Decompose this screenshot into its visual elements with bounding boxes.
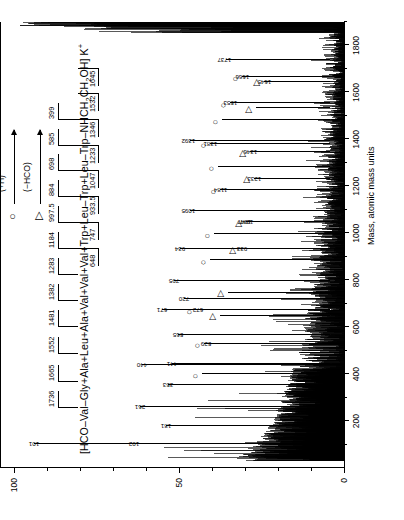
peak-mass-label: 1184 xyxy=(214,187,227,193)
fragment-mass-label: 933.5 xyxy=(89,197,97,216)
peak-mass-label: 261 xyxy=(135,404,145,410)
fragment-mass-label: 1645 xyxy=(89,71,97,87)
peak-mass-label: 1346 xyxy=(243,149,257,155)
x-tick xyxy=(344,279,349,280)
y-tick-label: 0 xyxy=(339,478,349,508)
peak-mass-label: 565 xyxy=(173,332,183,338)
peak-mass-label: 181 xyxy=(161,423,171,429)
peak-mass-label: 1553 xyxy=(223,100,237,106)
fragment-mass-label: 1346 xyxy=(89,122,97,138)
peak-leader-line xyxy=(140,406,330,407)
peak-leader-line xyxy=(226,59,330,60)
peak-leader-line xyxy=(204,343,330,344)
y-tick xyxy=(278,468,279,471)
peak-mass-label: 1233 xyxy=(247,176,261,182)
peak-mass-label: 441 xyxy=(167,361,177,367)
y-tick xyxy=(113,468,114,471)
y-tick xyxy=(179,468,180,473)
y-tick xyxy=(245,468,246,471)
peak-leader-line xyxy=(256,107,330,108)
fragment-mass-label: 1736 xyxy=(48,391,56,407)
x-tick xyxy=(344,209,347,210)
x-tick xyxy=(344,232,349,233)
peak-mass-label: 102 xyxy=(129,441,139,447)
fragment-mass-label: 1184 xyxy=(48,232,56,248)
peak-leader-line xyxy=(222,119,330,120)
peak-mass-label: 1392 xyxy=(181,138,195,144)
fragment-stem xyxy=(58,170,78,171)
fragment-stem xyxy=(58,274,78,275)
y-tick-label: 50 xyxy=(174,478,184,508)
fragment-mass-label: 1481 xyxy=(48,310,56,326)
peak-leader-line xyxy=(220,315,330,316)
minus-hco-marker-icon: ▷ xyxy=(244,106,253,113)
x-axis-line xyxy=(344,22,345,468)
fragment-arm xyxy=(98,68,99,86)
x-tick-label: 1800 xyxy=(351,36,361,55)
fragment-arm xyxy=(58,180,59,197)
fragment-mass-label: 1382 xyxy=(48,284,56,300)
peak-leader-line xyxy=(174,280,330,281)
x-tick-label: 400 xyxy=(351,367,361,381)
fragment-arm xyxy=(98,119,99,137)
fragment-arm xyxy=(98,196,99,214)
x-tick-label: 600 xyxy=(351,320,361,334)
figure-page: 101102181261353○440441○529565▷671○672720… xyxy=(0,0,404,520)
peak-leader-line xyxy=(196,309,330,310)
fragment-mass-label: 1552 xyxy=(48,337,56,353)
minus-hco-marker-icon: ▷ xyxy=(216,290,225,297)
x-tick xyxy=(344,21,347,22)
fragment-arm xyxy=(58,129,59,146)
fragment-stem xyxy=(58,326,78,327)
peak-mass-label: 795 xyxy=(169,278,179,284)
fragment-arm xyxy=(98,93,99,111)
fragment-mass-label: 698 xyxy=(48,158,56,170)
legend-arrow-icon xyxy=(14,130,15,204)
peak-leader-line xyxy=(190,140,330,141)
fragment-arm xyxy=(58,258,59,275)
fragment-stem xyxy=(58,222,78,223)
peak-leader-line xyxy=(210,143,330,144)
frame-top-rule xyxy=(0,22,1,468)
peak-mass-label: 529 xyxy=(201,341,211,347)
x-tick xyxy=(344,303,347,304)
fragment-stem xyxy=(58,119,78,120)
fragment-arm xyxy=(58,232,59,249)
fragment-arm xyxy=(98,222,99,240)
peak-mass-label: 353 xyxy=(163,382,173,388)
legend-label: (+H) xyxy=(0,175,6,192)
x-axis-title: Mass, atomic mass units xyxy=(366,146,376,245)
x-tick-label: 800 xyxy=(351,273,361,287)
x-tick xyxy=(344,397,347,398)
peak-leader-line xyxy=(210,260,330,261)
fragment-stem xyxy=(78,222,98,223)
peak-leader-line xyxy=(250,151,330,152)
fragment-mass-label: 997.5 xyxy=(48,204,56,223)
fragment-mass-label: 648 xyxy=(89,255,97,267)
peak-leader-line xyxy=(134,443,330,444)
fragment-stem xyxy=(58,353,78,354)
fragment-stem xyxy=(78,68,98,69)
fragment-mass-label: 1532 xyxy=(89,96,97,112)
x-tick xyxy=(344,373,349,374)
x-tick xyxy=(344,326,349,327)
mass-spectrum-figure: 101102181261353○440441○529565▷671○672720… xyxy=(0,0,404,520)
fragment-stem xyxy=(58,145,78,146)
frame-left-rule xyxy=(0,467,15,468)
plus-h-marker-icon: ○ xyxy=(7,213,18,220)
fragment-mass-label: 747 xyxy=(89,229,97,241)
fragment-mass-label: 1283 xyxy=(48,258,56,274)
peak-mass-label: 672 xyxy=(193,307,203,313)
y-tick xyxy=(212,468,213,471)
peak-mass-label: 671 xyxy=(157,308,167,314)
fragment-stem xyxy=(78,170,98,171)
x-tick xyxy=(344,256,347,257)
peak-mass-label: 440 xyxy=(137,362,147,368)
fragment-mass-label: 884 xyxy=(48,184,56,196)
plus-h-marker-icon: ○ xyxy=(207,166,216,171)
fragment-arm xyxy=(98,170,99,188)
peak-leader-line xyxy=(220,189,330,190)
peak-mass-label: 1095 xyxy=(181,208,195,214)
fragment-stem xyxy=(78,248,98,249)
fragment-arm xyxy=(58,103,59,120)
